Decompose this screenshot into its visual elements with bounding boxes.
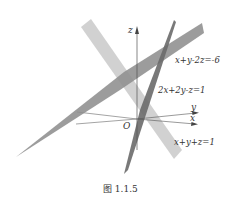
z-axis-arrowhead-icon [135, 26, 139, 34]
x-axis-label: x [190, 113, 195, 123]
origin-label: O [123, 121, 131, 131]
plane-label-1: x+y-2z=-6 [175, 55, 220, 65]
figure-caption: 图 1.1.5 [103, 184, 138, 194]
z-axis-label: z [127, 25, 133, 35]
three-planes-figure: z y x O x+y-2z=-6 2x+2y-z=1 x+y+z=1 图 1.… [0, 0, 244, 200]
plane-label-3: x+y+z=1 [174, 137, 215, 147]
plane-label-2: 2x+2y-z=1 [157, 85, 205, 95]
y-axis-label: y [190, 102, 197, 112]
y-axis-back-line [77, 112, 137, 119]
x-axis [137, 119, 198, 126]
